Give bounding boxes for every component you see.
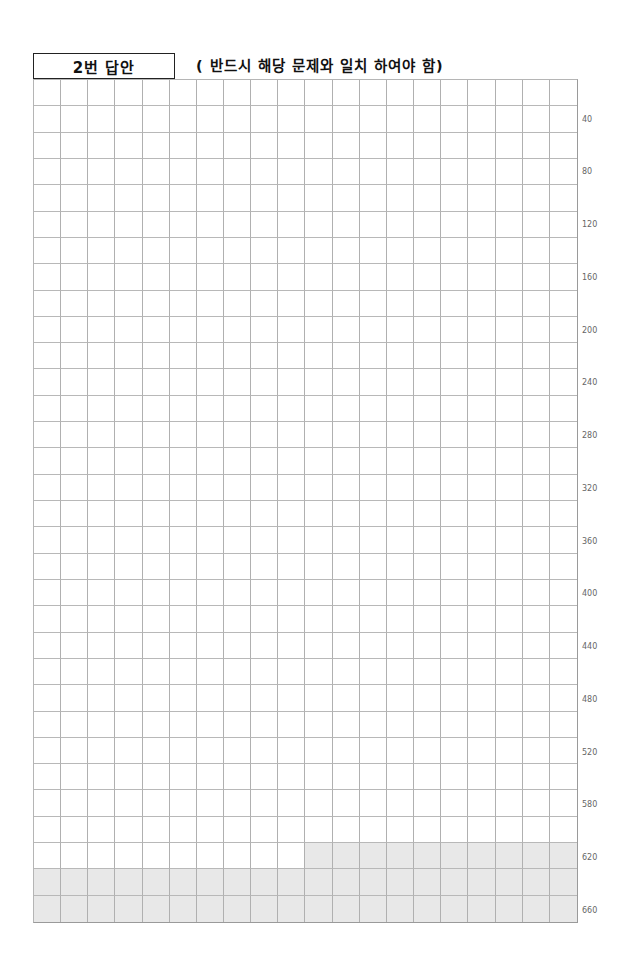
grid-cell[interactable] — [143, 448, 170, 474]
grid-cell[interactable] — [143, 133, 170, 159]
grid-cell[interactable] — [61, 764, 88, 790]
grid-cell[interactable] — [170, 764, 197, 790]
grid-cell[interactable] — [251, 80, 278, 106]
grid-cell[interactable] — [414, 448, 441, 474]
grid-cell[interactable] — [278, 133, 305, 159]
grid-cell[interactable] — [115, 396, 142, 422]
grid-cell[interactable] — [224, 369, 251, 395]
grid-cell[interactable] — [251, 843, 278, 869]
grid-cell[interactable] — [360, 475, 387, 501]
grid-cell[interactable] — [333, 527, 360, 553]
grid-cell[interactable] — [197, 764, 224, 790]
grid-cell[interactable] — [88, 185, 115, 211]
grid-cell[interactable] — [88, 317, 115, 343]
grid-cell[interactable] — [170, 817, 197, 843]
grid-cell[interactable] — [496, 817, 523, 843]
grid-cell[interactable] — [523, 159, 550, 185]
grid-cell[interactable] — [61, 396, 88, 422]
grid-cell[interactable] — [441, 448, 468, 474]
grid-cell[interactable] — [170, 659, 197, 685]
grid-cell[interactable] — [61, 291, 88, 317]
grid-cell[interactable] — [61, 843, 88, 869]
grid-cell[interactable] — [115, 422, 142, 448]
grid-cell[interactable] — [170, 475, 197, 501]
grid-cell[interactable] — [496, 185, 523, 211]
grid-cell[interactable] — [441, 527, 468, 553]
grid-cell[interactable] — [333, 106, 360, 132]
grid-cell[interactable] — [143, 80, 170, 106]
grid-cell[interactable] — [278, 343, 305, 369]
grid-cell[interactable] — [523, 554, 550, 580]
grid-cell[interactable] — [143, 238, 170, 264]
grid-cell[interactable] — [224, 790, 251, 816]
grid-cell[interactable] — [61, 448, 88, 474]
grid-cell[interactable] — [305, 264, 332, 290]
grid-cell[interactable] — [143, 554, 170, 580]
grid-cell[interactable] — [34, 396, 61, 422]
grid-cell[interactable] — [523, 396, 550, 422]
grid-cell[interactable] — [88, 212, 115, 238]
grid-cell[interactable] — [523, 738, 550, 764]
grid-cell[interactable] — [305, 764, 332, 790]
grid-cell[interactable] — [278, 764, 305, 790]
grid-cell[interactable] — [305, 369, 332, 395]
grid-cell[interactable] — [88, 422, 115, 448]
grid-cell[interactable] — [278, 396, 305, 422]
grid-cell[interactable] — [414, 369, 441, 395]
grid-cell[interactable] — [251, 448, 278, 474]
grid-cell[interactable] — [170, 264, 197, 290]
grid-cell[interactable] — [550, 80, 577, 106]
grid-cell[interactable] — [61, 238, 88, 264]
grid-cell[interactable] — [414, 580, 441, 606]
grid-cell[interactable] — [197, 238, 224, 264]
grid-cell[interactable] — [441, 685, 468, 711]
grid-cell[interactable] — [224, 554, 251, 580]
grid-cell[interactable] — [115, 580, 142, 606]
grid-cell[interactable] — [197, 790, 224, 816]
grid-cell[interactable] — [360, 396, 387, 422]
grid-cell[interactable] — [523, 238, 550, 264]
grid-cell[interactable] — [550, 659, 577, 685]
grid-cell[interactable] — [414, 685, 441, 711]
grid-cell[interactable] — [523, 501, 550, 527]
grid-cell[interactable] — [414, 343, 441, 369]
grid-cell[interactable] — [333, 80, 360, 106]
grid-cell[interactable] — [305, 448, 332, 474]
grid-cell[interactable] — [170, 554, 197, 580]
grid-cell[interactable] — [224, 738, 251, 764]
grid-cell[interactable] — [224, 106, 251, 132]
grid-cell[interactable] — [360, 264, 387, 290]
grid-cell[interactable] — [360, 554, 387, 580]
grid-cell[interactable] — [550, 212, 577, 238]
grid-cell[interactable] — [34, 764, 61, 790]
grid-cell[interactable] — [550, 343, 577, 369]
grid-cell[interactable] — [88, 685, 115, 711]
grid-cell[interactable] — [143, 106, 170, 132]
grid-cell[interactable] — [224, 159, 251, 185]
grid-cell[interactable] — [333, 475, 360, 501]
grid-cell[interactable] — [496, 291, 523, 317]
grid-cell[interactable] — [251, 317, 278, 343]
grid-cell[interactable] — [496, 764, 523, 790]
grid-cell[interactable] — [115, 448, 142, 474]
grid-cell[interactable] — [496, 580, 523, 606]
grid-cell[interactable] — [170, 606, 197, 632]
grid-cell[interactable] — [496, 475, 523, 501]
grid-cell[interactable] — [61, 369, 88, 395]
grid-cell[interactable] — [224, 633, 251, 659]
grid-cell[interactable] — [224, 712, 251, 738]
grid-cell[interactable] — [305, 606, 332, 632]
grid-cell[interactable] — [360, 185, 387, 211]
grid-cell[interactable] — [88, 159, 115, 185]
grid-cell[interactable] — [61, 817, 88, 843]
grid-cell[interactable] — [278, 790, 305, 816]
grid-cell[interactable] — [278, 264, 305, 290]
grid-cell[interactable] — [224, 501, 251, 527]
grid-cell[interactable] — [278, 501, 305, 527]
grid-cell[interactable] — [333, 790, 360, 816]
grid-cell[interactable] — [115, 659, 142, 685]
grid-cell[interactable] — [34, 422, 61, 448]
grid-cell[interactable] — [360, 422, 387, 448]
grid-cell[interactable] — [333, 238, 360, 264]
grid-cell[interactable] — [387, 764, 414, 790]
